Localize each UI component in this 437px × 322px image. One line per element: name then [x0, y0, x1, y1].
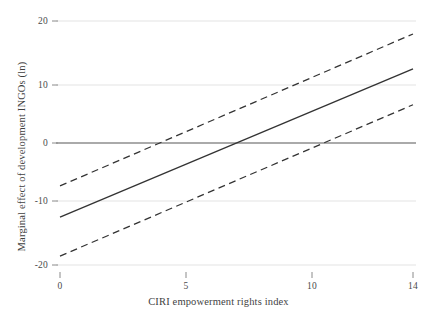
plot-area: [0, 0, 437, 322]
y-tick-label-20: 20: [28, 16, 48, 26]
x-tick-marks: [60, 272, 413, 278]
x-tick-label-10: 10: [307, 281, 317, 291]
upper-confidence-bound-line: [60, 34, 413, 186]
y-tick-label-10: 10: [28, 80, 48, 90]
y-axis-title: Marginal effect of development INGOs (ln…: [16, 37, 27, 277]
marginal-effects-chart: 20 10 0 -10 -20 0 5 10 14 CIRI empowerme…: [0, 0, 437, 322]
y-tick-marks: [52, 21, 58, 265]
x-tick-label-5: 5: [184, 281, 189, 291]
lower-confidence-bound-line: [60, 105, 413, 256]
x-tick-label-14: 14: [408, 281, 418, 291]
y-tick-label-0: 0: [28, 138, 48, 148]
x-axis-title: CIRI empowerment rights index: [0, 296, 437, 307]
x-tick-label-0: 0: [58, 281, 63, 291]
